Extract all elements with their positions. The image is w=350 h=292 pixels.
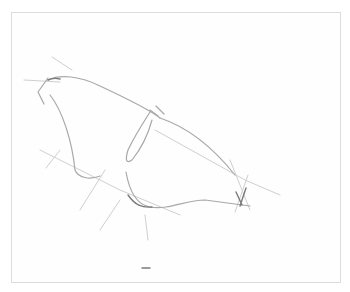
pencil-sketch (0, 0, 350, 292)
